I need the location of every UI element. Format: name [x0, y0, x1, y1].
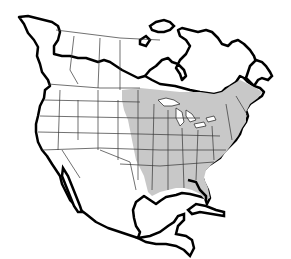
north-america-map — [0, 0, 291, 259]
arctic-island — [140, 36, 150, 46]
range-map — [0, 0, 291, 259]
